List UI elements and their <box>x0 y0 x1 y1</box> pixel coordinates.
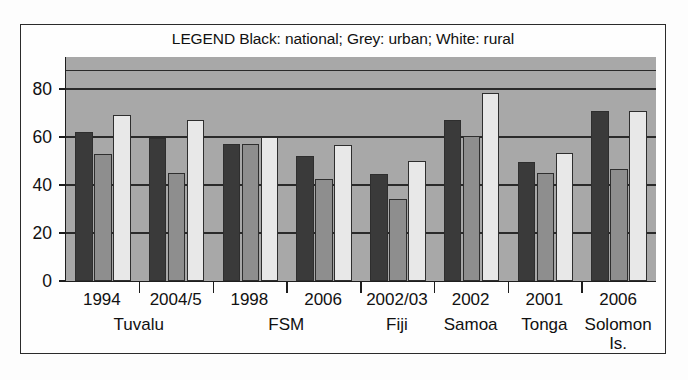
bar-rural-1998-2 <box>261 137 279 281</box>
x-axis-separator-4 <box>360 282 362 293</box>
x-axis-separator-5 <box>434 282 436 293</box>
bar-rural-2006-7 <box>629 111 647 281</box>
bar-national-1998-2 <box>223 144 241 281</box>
bar-rural-2002-03-4 <box>408 161 426 281</box>
country-label-fiji: Fiji <box>386 315 408 334</box>
bar-urban-2002-5 <box>463 136 481 281</box>
bar-national-1994-0 <box>75 132 93 281</box>
y-tick-label-40: 40 <box>0 175 52 196</box>
country-label-fsm: FSM <box>268 315 304 334</box>
bar-rural-2001-6 <box>556 153 574 281</box>
year-label-0: 1994 <box>83 290 121 310</box>
country-label-tonga: Tonga <box>521 315 567 334</box>
bar-rural-1994-0 <box>113 115 131 281</box>
plot-area <box>65 57 656 282</box>
bar-national-2002-5 <box>444 120 462 281</box>
y-tick-label-80: 80 <box>0 79 52 100</box>
bar-national-2006-7 <box>591 111 609 281</box>
bar-urban-1994-0 <box>94 154 112 281</box>
year-label-7: 2006 <box>599 290 637 310</box>
year-label-6: 2001 <box>525 290 563 310</box>
country-label-solomon-line2: Is. <box>585 334 652 353</box>
bar-urban-2006-3 <box>315 179 333 281</box>
bar-urban-1998-2 <box>242 144 260 281</box>
bar-urban-2006-7 <box>610 169 628 281</box>
bar-rural-2004-5-1 <box>187 120 205 281</box>
country-label-samoa: Samoa <box>444 315 498 334</box>
y-tickmark-40 <box>59 184 65 186</box>
country-label-solomonis: SolomonIs. <box>585 315 652 353</box>
year-label-2: 1998 <box>230 290 268 310</box>
y-tick-label-0: 0 <box>0 271 52 292</box>
y-tickmark-0 <box>59 280 65 282</box>
x-axis-separator-6 <box>508 282 510 293</box>
bar-national-2004-5-1 <box>149 138 167 281</box>
figure-root: LEGEND Black: national; Grey: urban; Whi… <box>0 0 688 380</box>
bar-urban-2001-6 <box>537 173 555 281</box>
year-label-1: 2004/5 <box>150 290 202 310</box>
bar-rural-2006-3 <box>334 145 352 281</box>
country-label-solomon-line1: Solomon <box>585 315 652 334</box>
year-label-5: 2002 <box>452 290 490 310</box>
y-axis: 020406080 <box>0 0 65 340</box>
year-label-4: 2002/03 <box>366 290 427 310</box>
bar-urban-2002-03-4 <box>389 199 407 281</box>
gridline-top-edge <box>66 70 656 72</box>
x-axis-separator-7 <box>581 282 583 293</box>
x-axis-separator-2 <box>213 282 215 293</box>
bar-national-2002-03-4 <box>370 174 388 281</box>
year-label-3: 2006 <box>304 290 342 310</box>
chart-legend: LEGEND Black: national; Grey: urban; Whi… <box>20 30 666 48</box>
bar-urban-2004-5-1 <box>168 173 186 281</box>
x-axis-separator-1 <box>139 282 141 293</box>
y-tickmark-80 <box>59 88 65 90</box>
bar-rural-2002-5 <box>482 93 500 281</box>
gridline-80 <box>66 88 656 90</box>
y-tickmark-20 <box>59 232 65 234</box>
y-tickmark-60 <box>59 136 65 138</box>
bar-national-2001-6 <box>518 162 536 281</box>
bar-national-2006-3 <box>296 156 314 281</box>
country-label-tuvalu: Tuvalu <box>114 315 164 334</box>
x-axis-separator-3 <box>286 282 288 293</box>
y-tick-label-60: 60 <box>0 127 52 148</box>
y-tick-label-20: 20 <box>0 223 52 244</box>
